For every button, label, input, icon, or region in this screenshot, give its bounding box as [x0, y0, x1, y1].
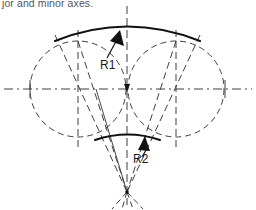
r1-arrowhead-icon: [110, 30, 124, 46]
convergence-point-marker: [125, 190, 129, 194]
ellipse-construction-drawing: R1 R2: [0, 0, 256, 210]
fan-line-left: [112, 192, 127, 209]
r2-label: R2: [133, 152, 149, 166]
radial-line-right: [127, 41, 176, 192]
figure-root: jor and minor axes.: [0, 0, 256, 210]
fan-line-right: [127, 192, 143, 209]
radial-line-far-left: [55, 35, 127, 192]
r1-label: R1: [100, 58, 116, 72]
axis-arrowhead-icon: [124, 84, 130, 92]
radial-line-solid-left: [96, 89, 127, 192]
radial-line-far-right: [127, 35, 200, 192]
r2-arrowhead-icon: [138, 136, 150, 151]
